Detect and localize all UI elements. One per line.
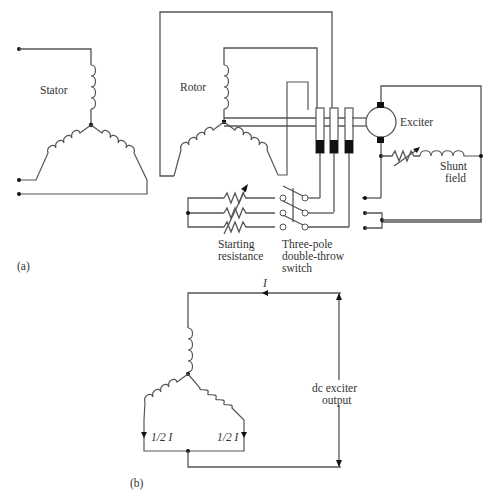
stator-winding [17, 47, 147, 196]
stator-coil-right [19, 125, 147, 194]
half-current-arrow-right [241, 432, 247, 438]
three-pole-double-throw-switch [280, 186, 349, 230]
switch-label-2: double-throw [282, 250, 345, 262]
rotor-label: Rotor [180, 81, 206, 93]
slip-rings [316, 108, 353, 227]
panel-b-label: (b) [130, 477, 144, 490]
output-label-2: output [322, 394, 352, 407]
current-label: I [262, 277, 268, 289]
shunt-field-label-2: field [445, 172, 466, 184]
current-arrow-top [262, 290, 268, 296]
output-label-1: dc exciter [312, 382, 357, 394]
starting-resistance [186, 184, 275, 234]
half-current-left-label: 1/2 I [151, 431, 174, 443]
exciter [352, 86, 483, 222]
switch-label-3: switch [282, 262, 312, 274]
shunt-field-coil [420, 151, 481, 156]
panel-a-label: (a) [17, 260, 30, 273]
starting-resistance-label-2: resistance [218, 250, 263, 262]
output-arrow-up [336, 293, 342, 300]
exciter-terminals [362, 196, 482, 230]
half-current-right-label: 1/2 I [217, 431, 240, 443]
half-current-arrow-left [141, 432, 147, 438]
output-arrow-down [336, 460, 342, 467]
stator-coil-left [19, 125, 91, 180]
rotor-coil-left [174, 122, 224, 176]
exciter-armature [366, 107, 396, 137]
stator-label: Stator [40, 84, 68, 96]
exciter-label: Exciter [400, 116, 433, 128]
stator-coil-top [91, 65, 96, 109]
shunt-field-label-1: Shunt [440, 160, 468, 172]
